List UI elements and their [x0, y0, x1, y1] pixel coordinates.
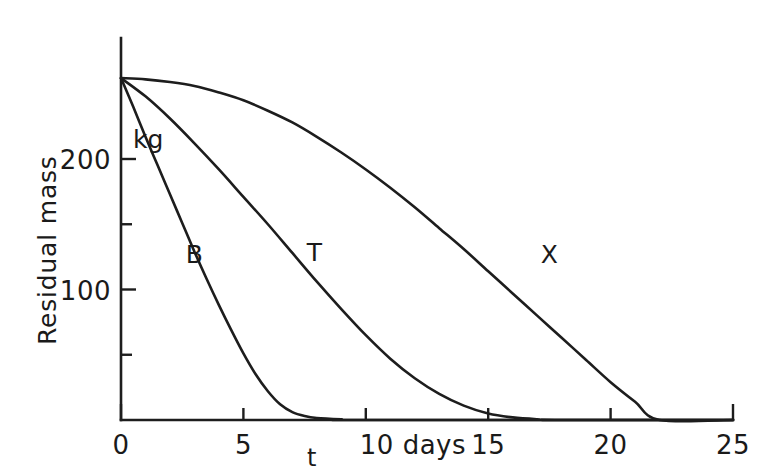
curve-label-group: BTX: [186, 238, 558, 270]
x-tick-label-0: 0: [112, 430, 129, 460]
x-tick-label-25: 25: [716, 430, 750, 460]
curve-B: [121, 78, 733, 420]
x-axis-variable: t: [307, 444, 316, 472]
curve-X: [121, 78, 733, 421]
chart-figure: BTX 1002000510 days152025 Residual mass …: [0, 0, 775, 474]
curve-label-B: B: [186, 240, 203, 269]
curve-label-T: T: [306, 238, 323, 267]
y-tick-group: [121, 159, 136, 355]
y-axis-title: Residual mass: [33, 155, 62, 345]
chart-canvas: BTX 1002000510 days152025 Residual mass …: [0, 0, 775, 474]
x-tick-label-20: 20: [594, 430, 628, 460]
x-tick-label-5: 5: [235, 430, 252, 460]
curve-group: [121, 78, 733, 421]
x-tick-label-15: 15: [471, 430, 505, 460]
x-tick-label-10: 10 days: [360, 430, 466, 460]
y-unit-label: kg: [133, 125, 163, 154]
curve-label-X: X: [541, 240, 558, 269]
y-tick-label-100: 100: [60, 276, 111, 306]
y-tick-label-200: 200: [60, 145, 111, 175]
curve-T: [121, 78, 733, 420]
